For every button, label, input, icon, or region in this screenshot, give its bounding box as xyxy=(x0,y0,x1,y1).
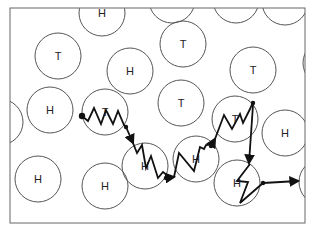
circle-label: T xyxy=(250,64,257,76)
diagram-canvas: HTTHTHTTTHHHHHH xyxy=(0,0,314,232)
circle-h: H xyxy=(214,160,260,206)
partial-circle xyxy=(213,0,259,23)
partial-circle xyxy=(299,159,314,205)
circle-t: T xyxy=(230,47,276,93)
circle-h: H xyxy=(15,156,61,202)
path-node-dot xyxy=(251,101,255,105)
circle-label: H xyxy=(126,65,134,77)
circle-h: H xyxy=(82,163,128,209)
circle-label: H xyxy=(281,127,289,139)
path-node-dot xyxy=(209,144,213,148)
circle-h: H xyxy=(79,0,125,36)
diagram-frame xyxy=(10,8,305,223)
circle-h: H xyxy=(262,110,308,156)
circle-label: H xyxy=(101,180,109,192)
circle-label: H xyxy=(233,177,241,189)
circle-h: H xyxy=(107,48,153,94)
circle-label: T xyxy=(55,50,62,62)
path-node-dot xyxy=(164,176,168,180)
circles-layer: HTTHTHTTTHHHHHH xyxy=(15,0,308,209)
walk-path xyxy=(82,102,298,203)
circle-label: H xyxy=(34,173,42,185)
path-node-dot xyxy=(124,125,128,129)
circle-t: T xyxy=(35,33,81,79)
circle-t: T xyxy=(158,80,204,126)
circle-label: H xyxy=(98,7,106,19)
circle-label: T xyxy=(178,97,185,109)
partial-circle xyxy=(149,0,195,23)
partial-circle xyxy=(0,99,23,145)
connector-arrow-1 xyxy=(126,127,133,143)
zigzag-segment-2 xyxy=(133,143,172,178)
path-node-dot xyxy=(261,181,265,185)
exit-arrow xyxy=(263,181,298,183)
partial-circle xyxy=(262,0,308,25)
circle-t: T xyxy=(160,21,206,67)
circle-label: H xyxy=(46,104,54,116)
start-node-dot xyxy=(79,113,85,119)
circle-label: T xyxy=(180,38,187,50)
circle-h: H xyxy=(27,87,73,133)
